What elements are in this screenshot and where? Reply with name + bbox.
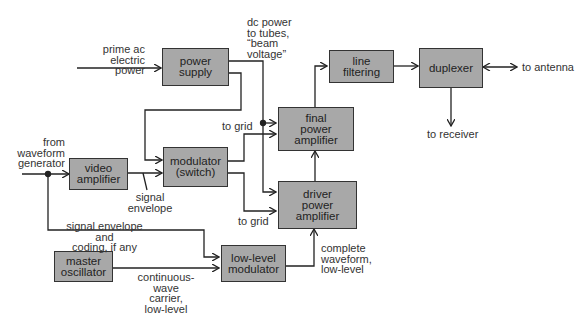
cw-carrier-label: continuous-wave carrier, low-level [126, 272, 206, 314]
line-filtering-block: line filtering [329, 50, 394, 83]
dc-power-label: dc power to tubes, “beam voltage” [247, 17, 292, 59]
prime-ac-label: prime ac electric power [80, 44, 145, 76]
to-receiver-label: to receiver [427, 129, 478, 140]
video-amplifier-block: video amplifier [69, 158, 128, 190]
to-antenna-label: to antenna [522, 62, 574, 73]
master-oscillator-block: master oscillator [54, 251, 113, 282]
duplexer-block: duplexer [419, 48, 483, 88]
power-supply-block: power supply [162, 48, 229, 86]
to-grid-top-label: to grid [222, 121, 253, 132]
low-level-modulator-block: low-level modulator [221, 245, 286, 282]
from-waveform-label: from waveform generator [2, 137, 65, 169]
signal-envelope-label: signal envelope [124, 192, 176, 213]
modulator-block: modulator (switch) [163, 147, 228, 187]
final-power-amplifier-block: final power amplifier [278, 107, 354, 151]
signal-envelope-coding-label: signal envelope and coding, if any [58, 221, 151, 253]
complete-waveform-label: complete waveform, low-level [321, 243, 372, 275]
driver-power-amplifier-block: driver power amplifier [278, 181, 357, 229]
to-grid-bottom-label: to grid [238, 216, 269, 227]
